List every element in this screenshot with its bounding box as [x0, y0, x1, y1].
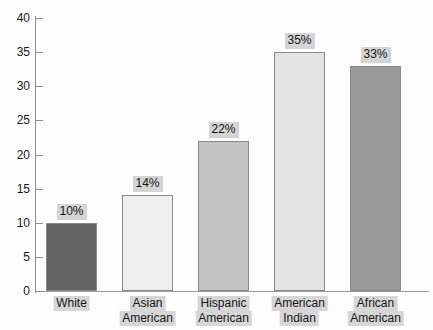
- y-tick-label: 35: [0, 46, 30, 58]
- category-label-line: African: [354, 296, 397, 311]
- data-label-white: 10%: [56, 204, 86, 220]
- bar-african-american[interactable]: [350, 66, 401, 291]
- data-label-african-american: 33%: [360, 47, 390, 63]
- data-label-hispanic-american: 22%: [208, 122, 238, 138]
- y-tick-label: 10: [0, 217, 30, 229]
- category-label-line: Indian: [280, 311, 319, 326]
- bar-white[interactable]: [46, 223, 97, 291]
- category-label-line: American: [347, 311, 404, 326]
- data-label-asian-american: 14%: [132, 176, 162, 192]
- y-tick-label: 40: [0, 12, 30, 24]
- category-label-line: American: [271, 296, 328, 311]
- category-label-line: White: [53, 296, 90, 311]
- y-tick-mark: [36, 189, 43, 190]
- y-tick-mark: [36, 120, 43, 121]
- y-tick-label: 25: [0, 114, 30, 126]
- y-tick-mark: [36, 86, 43, 87]
- y-tick-mark: [36, 18, 43, 19]
- y-tick-mark: [36, 257, 43, 258]
- category-label-african-american: AfricanAmerican: [347, 296, 404, 326]
- bar-hispanic-american[interactable]: [198, 141, 249, 291]
- y-tick-mark: [36, 155, 43, 156]
- data-label-american-indian: 35%: [284, 33, 314, 49]
- y-tick-label: 20: [0, 149, 30, 161]
- y-tick-mark: [36, 52, 43, 53]
- category-label-line: Hispanic: [197, 296, 249, 311]
- y-tick-label: 0: [0, 285, 30, 297]
- category-label-line: American: [119, 311, 176, 326]
- bar-american-indian[interactable]: [274, 52, 325, 291]
- bar-asian-american[interactable]: [122, 195, 173, 291]
- y-tick-label: 30: [0, 80, 30, 92]
- y-tick-label: 15: [0, 183, 30, 195]
- y-tick-mark: [36, 223, 43, 224]
- category-label-american-indian: AmericanIndian: [271, 296, 328, 326]
- y-tick-label: 5: [0, 251, 30, 263]
- bar-chart: 0510152025303540 10%14%22%35%33% WhiteAs…: [0, 0, 433, 330]
- x-axis-baseline: [35, 291, 429, 292]
- y-tick-mark: [36, 291, 43, 292]
- category-label-hispanic-american: HispanicAmerican: [195, 296, 252, 326]
- category-label-white: White: [53, 296, 90, 311]
- category-label-asian-american: AsianAmerican: [119, 296, 176, 326]
- category-label-line: American: [195, 311, 252, 326]
- category-label-line: Asian: [129, 296, 165, 311]
